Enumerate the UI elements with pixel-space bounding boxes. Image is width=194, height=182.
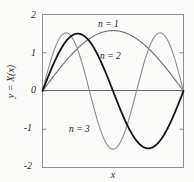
y-tick-label-1: 1 bbox=[20, 48, 36, 58]
x-axis-label: x bbox=[42, 169, 184, 180]
series-annotation-n2: n = 2 bbox=[100, 52, 121, 62]
series-annotation-n1: n = 1 bbox=[98, 20, 119, 30]
y-tick-label-minus-2: -2 bbox=[16, 161, 32, 171]
chart-figure: 2 1 0 -1 -2 y = X(x) x n = 1 n = 2 n = 3 bbox=[0, 0, 194, 182]
series-annotation-n3: n = 3 bbox=[69, 125, 90, 135]
y-axis-label: y = X(x) bbox=[5, 54, 16, 110]
y-tick-label-2: 2 bbox=[20, 10, 36, 20]
y-tick-label-0: 0 bbox=[20, 85, 36, 95]
y-tick-label-minus-1: -1 bbox=[16, 123, 32, 133]
